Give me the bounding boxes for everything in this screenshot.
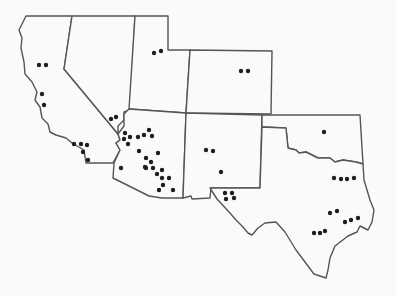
location-dot <box>349 218 353 222</box>
location-dot <box>224 197 228 201</box>
location-dot <box>345 177 349 181</box>
location-dot <box>137 149 141 153</box>
location-dot <box>86 158 90 162</box>
location-dot <box>239 69 243 73</box>
location-dot <box>322 130 326 134</box>
location-dot <box>126 142 130 146</box>
location-dot <box>44 63 48 67</box>
state-arizona <box>113 109 186 198</box>
location-dot <box>246 69 250 73</box>
location-dot <box>318 231 322 235</box>
location-dot <box>171 188 175 192</box>
location-dot <box>119 166 123 170</box>
location-dot <box>160 176 164 180</box>
location-dot <box>136 135 140 139</box>
southwest-us-map <box>0 0 396 296</box>
location-dot <box>142 133 146 137</box>
location-dot <box>160 168 164 172</box>
location-dot <box>157 188 161 192</box>
location-dot <box>161 183 165 187</box>
location-dot <box>343 220 347 224</box>
location-dot <box>328 211 332 215</box>
location-dot <box>40 92 44 96</box>
location-dot <box>149 160 153 164</box>
location-dot <box>155 172 159 176</box>
location-dot <box>37 63 41 67</box>
location-dot <box>156 151 160 155</box>
location-dot <box>72 142 76 146</box>
location-dot <box>81 150 85 154</box>
location-dot <box>167 176 171 180</box>
location-dot <box>159 49 163 53</box>
location-dot <box>356 216 360 220</box>
location-dot <box>42 103 46 107</box>
state-utah <box>129 16 190 113</box>
location-dot <box>232 196 236 200</box>
location-dot <box>147 128 151 132</box>
location-dot <box>223 191 227 195</box>
location-dot <box>114 115 118 119</box>
location-dot <box>150 134 154 138</box>
location-dot <box>144 156 148 160</box>
state-colorado <box>186 50 272 114</box>
location-dot <box>85 143 89 147</box>
location-dot <box>219 170 223 174</box>
location-dot <box>312 231 316 235</box>
location-dot <box>152 51 156 55</box>
location-dot <box>109 117 113 121</box>
location-dot <box>128 135 132 139</box>
state-boundaries <box>19 16 374 278</box>
location-dot <box>323 229 327 233</box>
location-dot <box>230 191 234 195</box>
location-dot <box>211 149 215 153</box>
location-dot <box>122 137 126 141</box>
location-dot <box>332 176 336 180</box>
location-dot <box>144 166 148 170</box>
location-dot <box>123 131 127 135</box>
location-dot <box>335 209 339 213</box>
location-dot <box>352 176 356 180</box>
state-new-mexico <box>183 113 262 199</box>
location-dot <box>204 148 208 152</box>
location-dot <box>339 177 343 181</box>
location-dot <box>79 142 83 146</box>
location-dot <box>151 166 155 170</box>
